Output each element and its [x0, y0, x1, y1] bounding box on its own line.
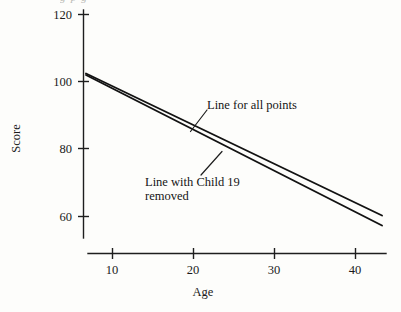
y-tick-label-80: 80: [28, 142, 72, 157]
y-tick-label-120: 120: [28, 8, 72, 23]
annotation-line-for-all-points: Line for all points: [207, 99, 297, 113]
chart-figure: g p g 120 100 80 60 10 20 30 40 Score: [0, 0, 401, 312]
y-axis-label: Score: [9, 109, 24, 169]
leader-line-child-removed: [201, 152, 222, 176]
x-axis-label: Age: [158, 285, 248, 300]
annotation-line-with-child-19-removed: Line with Child 19 removed: [145, 176, 240, 203]
x-tick-label-10: 10: [92, 263, 132, 278]
y-tick-label-60: 60: [28, 210, 72, 225]
x-tick-label-40: 40: [335, 263, 375, 278]
y-tick-label-100: 100: [28, 75, 72, 90]
x-tick-label-30: 30: [254, 263, 294, 278]
x-tick-label-20: 20: [173, 263, 213, 278]
